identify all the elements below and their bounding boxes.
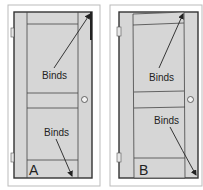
panel-b: Binds Binds B bbox=[110, 5, 202, 186]
binding-door-diagram: Binds Binds A Binds Binds B bbox=[0, 0, 203, 190]
hinge-icon bbox=[117, 27, 121, 36]
hinge-icon bbox=[11, 153, 14, 162]
door-b bbox=[133, 12, 185, 178]
panel-a-label: A bbox=[29, 162, 39, 178]
binds-label-b-bottom: Binds bbox=[154, 115, 179, 126]
binds-label-a-top: Binds bbox=[42, 70, 67, 81]
door-a bbox=[14, 12, 92, 178]
panel-b-label: B bbox=[139, 162, 148, 178]
panel-a: Binds Binds A bbox=[8, 5, 100, 186]
doorknob-icon bbox=[188, 97, 194, 103]
doorknob-icon bbox=[82, 97, 88, 103]
hinge-icon bbox=[117, 153, 121, 162]
binds-label-a-bottom: Binds bbox=[44, 127, 69, 138]
hinge-icon bbox=[11, 28, 14, 37]
binds-label-b-top: Binds bbox=[149, 72, 174, 83]
